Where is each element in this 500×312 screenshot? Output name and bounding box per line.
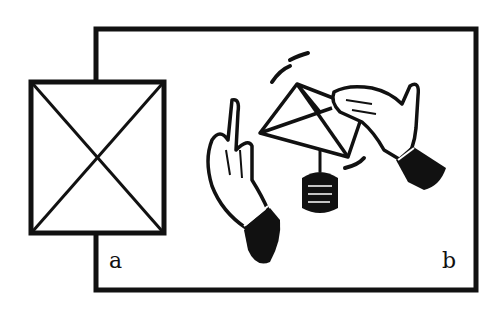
label-b: b (442, 250, 456, 272)
label-a: a (109, 250, 122, 272)
hanging-weight-icon (302, 148, 338, 213)
crossed-box-a (31, 82, 164, 233)
diagram-canvas (0, 0, 500, 312)
